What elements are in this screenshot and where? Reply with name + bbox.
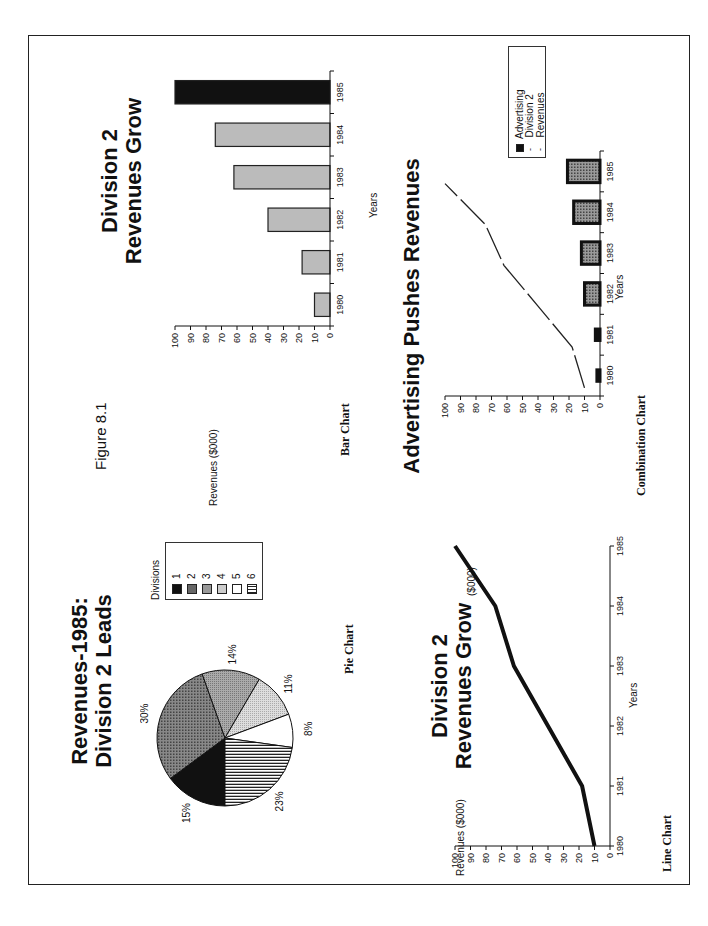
svg-text:1985: 1985 bbox=[615, 536, 625, 556]
pie-label-3: 14% bbox=[227, 644, 238, 664]
legend-label: 3 bbox=[201, 573, 212, 579]
svg-text:1980: 1980 bbox=[335, 295, 345, 315]
legend-item-division-1: 1 bbox=[169, 543, 184, 599]
pie-label-6: 23% bbox=[274, 791, 285, 811]
svg-text:1983: 1983 bbox=[605, 243, 615, 263]
svg-text:50: 50 bbox=[518, 403, 528, 413]
legend-label: 6 bbox=[246, 573, 257, 579]
swatch-dotted-icon bbox=[187, 584, 197, 594]
pie-chart: 15%30%14%11%8%23% bbox=[140, 616, 330, 836]
svg-text:40: 40 bbox=[263, 333, 273, 343]
combination-chart: 0102030405060708090100198019811982198319… bbox=[430, 126, 630, 426]
svg-text:0: 0 bbox=[605, 853, 615, 858]
swatch-gray-icon bbox=[202, 584, 212, 594]
svg-text:70: 70 bbox=[497, 853, 507, 863]
svg-text:1984: 1984 bbox=[605, 202, 615, 222]
pie-title-line1: Revenues-1985: bbox=[68, 556, 92, 806]
bar-chart: 0102030405060708090100198019811982198319… bbox=[160, 56, 360, 356]
line-chart-caption: Line Chart bbox=[660, 815, 675, 872]
legend-label: 5 bbox=[231, 573, 242, 579]
pie-legend-box: 1 2 3 4 5 6 bbox=[165, 542, 263, 600]
svg-text:40: 40 bbox=[533, 403, 543, 413]
svg-text:60: 60 bbox=[512, 853, 522, 863]
svg-text:30: 30 bbox=[279, 333, 289, 343]
legend-item-division-2: 2 bbox=[184, 543, 199, 599]
pie-legend-title: Divisions bbox=[150, 542, 161, 600]
svg-text:40: 40 bbox=[543, 853, 553, 863]
svg-text:80: 80 bbox=[481, 853, 491, 863]
legend-label: 1 bbox=[171, 573, 182, 579]
svg-text:10: 10 bbox=[310, 333, 320, 343]
svg-text:30: 30 bbox=[559, 853, 569, 863]
swatch-white-icon bbox=[232, 584, 242, 594]
legend-item-division-2-revenues: - -Division 2 Revenues bbox=[527, 47, 542, 157]
svg-text:1984: 1984 bbox=[615, 596, 625, 616]
svg-text:1981: 1981 bbox=[615, 776, 625, 796]
bar-chart-caption: Bar Chart bbox=[338, 403, 353, 456]
bar-1982 bbox=[268, 208, 330, 231]
svg-text:1982: 1982 bbox=[615, 716, 625, 736]
svg-text:1981: 1981 bbox=[335, 252, 345, 272]
svg-text:1980: 1980 bbox=[605, 366, 615, 386]
svg-text:50: 50 bbox=[248, 333, 258, 343]
svg-text:60: 60 bbox=[232, 333, 242, 343]
svg-text:1984: 1984 bbox=[335, 125, 345, 145]
bar-1980 bbox=[315, 293, 331, 316]
svg-text:70: 70 bbox=[487, 403, 497, 413]
svg-text:90: 90 bbox=[186, 333, 196, 343]
svg-text:1983: 1983 bbox=[335, 167, 345, 187]
svg-text:1982: 1982 bbox=[335, 210, 345, 230]
line-chart-ylabel: Revenues ($000) bbox=[455, 799, 466, 876]
pie-label-5: 8% bbox=[303, 722, 314, 737]
pie-label-4: 11% bbox=[283, 674, 294, 693]
bar-1985 bbox=[175, 81, 330, 104]
svg-text:50: 50 bbox=[528, 853, 538, 863]
svg-text:20: 20 bbox=[574, 853, 584, 863]
svg-text:1981: 1981 bbox=[605, 325, 615, 345]
combo-chart-caption: Combination Chart bbox=[634, 395, 649, 496]
svg-text:1985: 1985 bbox=[335, 82, 345, 102]
svg-text:10: 10 bbox=[590, 853, 600, 863]
legend-item-division-3: 3 bbox=[199, 543, 214, 599]
pie-legend: Divisions 1 2 3 4 5 6 bbox=[150, 542, 263, 600]
swatch-black-icon bbox=[172, 584, 182, 594]
pie-label-2: 30% bbox=[140, 703, 150, 723]
svg-text:90: 90 bbox=[466, 853, 476, 863]
combo-chart-title: Advertising Pushes Revenues bbox=[400, 66, 424, 566]
svg-text:10: 10 bbox=[580, 403, 590, 413]
combo-legend: Advertising - -Division 2 Revenues bbox=[508, 46, 546, 158]
svg-text:20: 20 bbox=[564, 403, 574, 413]
svg-text:1980: 1980 bbox=[615, 836, 625, 856]
bar-title-line2: Revenues Grow bbox=[122, 76, 146, 286]
svg-text:60: 60 bbox=[502, 403, 512, 413]
advertising-bar-1984 bbox=[574, 201, 600, 223]
svg-text:90: 90 bbox=[456, 403, 466, 413]
pie-label-1: 15% bbox=[181, 803, 192, 823]
svg-text:30: 30 bbox=[549, 403, 559, 413]
bar-1984 bbox=[215, 123, 330, 146]
advertising-bar-1982 bbox=[585, 283, 601, 305]
bar-chart-title: Division 2 Revenues Grow bbox=[98, 76, 146, 286]
svg-text:0: 0 bbox=[325, 333, 335, 338]
swatch-striped-icon bbox=[247, 584, 257, 594]
legend-label: 4 bbox=[216, 573, 227, 579]
bar-chart-ylabel: Revenues ($000) bbox=[208, 429, 219, 506]
svg-text:100: 100 bbox=[440, 403, 450, 418]
combo-chart-xlabel: Years bbox=[614, 275, 625, 300]
svg-text:1983: 1983 bbox=[615, 656, 625, 676]
figure-page: Figure 8.1 Revenues-1985: Division 2 Lea… bbox=[0, 0, 708, 926]
advertising-bar-1985 bbox=[567, 160, 600, 182]
swatch-bar-icon bbox=[516, 144, 524, 152]
figure-label: Figure 8.1 bbox=[92, 402, 109, 470]
svg-text:100: 100 bbox=[170, 333, 180, 348]
advertising-bar-1981 bbox=[595, 329, 600, 340]
pie-chart-caption: Pie Chart bbox=[342, 624, 357, 674]
dash-line-icon: - - bbox=[525, 143, 545, 151]
svg-text:1985: 1985 bbox=[605, 161, 615, 181]
svg-text:20: 20 bbox=[294, 333, 304, 343]
svg-text:0: 0 bbox=[595, 403, 605, 408]
svg-text:80: 80 bbox=[471, 403, 481, 413]
legend-item-division-4: 4 bbox=[214, 543, 229, 599]
legend-item-division-6: 6 bbox=[244, 543, 259, 599]
pie-title-line2: Division 2 Leads bbox=[92, 556, 116, 806]
